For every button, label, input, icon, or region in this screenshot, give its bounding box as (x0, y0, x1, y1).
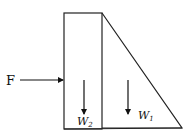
w2-label: W2 (77, 115, 93, 129)
base-line (64, 128, 182, 129)
force-diagram: F W2 W1 (0, 0, 192, 137)
w2-subscript: 2 (87, 121, 93, 129)
w1-label: W1 (138, 109, 154, 123)
rectangle-block (64, 13, 102, 129)
force-label: F (6, 73, 15, 88)
w1-subscript: 1 (149, 115, 153, 123)
